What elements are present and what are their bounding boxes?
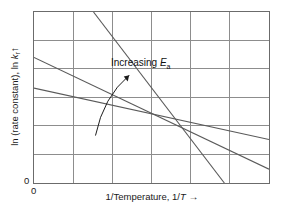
- y-axis-arrow-icon: ↑: [9, 48, 20, 52]
- annotation-prefix: Increasing: [111, 57, 160, 68]
- x-axis-label-symbol: T: [180, 191, 186, 202]
- x-axis-origin-zero: 0: [31, 186, 36, 196]
- x-axis-label: 1/Temperature, 1/T →: [33, 191, 270, 202]
- y-axis-origin-zero: 0: [24, 176, 29, 186]
- plot-svg: [34, 12, 269, 183]
- plot-area: [33, 11, 270, 184]
- arrowhead: [124, 75, 129, 81]
- arrhenius-plot-figure: Increasing Ea ln (rate constant), ln kr↑…: [0, 0, 283, 216]
- x-axis-arrow-icon: →: [188, 191, 197, 202]
- annotation-subscript: a: [167, 63, 171, 70]
- x-axis-label-prefix: 1/Temperature, 1/: [106, 191, 180, 202]
- y-axis-label-prefix: ln (rate constant), ln: [9, 59, 20, 146]
- annotation-symbol: E: [160, 57, 167, 68]
- y-axis-label-symbol: k: [9, 55, 20, 60]
- y-axis-label: ln (rate constant), ln kr↑: [8, 11, 22, 184]
- increasing-ea-label: Increasing Ea: [111, 57, 171, 70]
- y-axis-label-subscript: r: [14, 52, 21, 54]
